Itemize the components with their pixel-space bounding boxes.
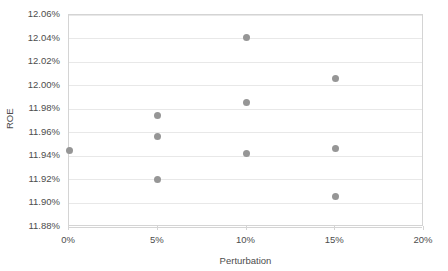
y-axis-tick-label: 12.04% xyxy=(0,33,60,43)
y-gridline xyxy=(69,109,422,110)
y-axis-tick-label: 12.06% xyxy=(0,9,60,19)
data-point xyxy=(154,176,161,183)
y-axis-title: ROE xyxy=(5,97,15,141)
y-axis-tick-label: 11.94% xyxy=(0,150,60,160)
y-axis-tick-label: 11.88% xyxy=(0,221,60,231)
x-axis-title: Perturbation xyxy=(68,256,423,266)
data-point xyxy=(154,112,161,119)
data-point xyxy=(243,99,250,106)
data-point xyxy=(332,145,339,152)
y-gridline xyxy=(69,203,422,204)
data-point xyxy=(332,193,339,200)
y-axis-tick-label: 11.90% xyxy=(0,197,60,207)
data-point xyxy=(332,75,339,82)
y-gridline xyxy=(69,85,422,86)
x-axis-tick-label: 20% xyxy=(393,235,448,245)
x-axis-tick-label: 5% xyxy=(127,235,187,245)
x-axis-tick-label: 15% xyxy=(304,235,364,245)
y-axis-tick-label: 12.00% xyxy=(0,80,60,90)
x-axis-tick-mark xyxy=(68,226,69,230)
x-axis-tick-mark xyxy=(423,226,424,230)
data-point xyxy=(154,133,161,140)
data-point xyxy=(243,34,250,41)
x-axis-tick-mark xyxy=(246,226,247,230)
y-gridline xyxy=(69,15,422,16)
y-gridline xyxy=(69,62,422,63)
y-axis-tick-label: 11.92% xyxy=(0,174,60,184)
x-axis-tick-label: 10% xyxy=(216,235,276,245)
scatter-chart: 11.88%11.90%11.92%11.94%11.96%11.98%12.0… xyxy=(0,0,448,271)
y-axis-tick-label: 12.02% xyxy=(0,56,60,66)
x-axis-tick-mark xyxy=(157,226,158,230)
x-axis-tick-mark xyxy=(334,226,335,230)
y-gridline xyxy=(69,179,422,180)
x-axis-tick-label: 0% xyxy=(38,235,98,245)
plot-area xyxy=(68,14,423,226)
data-point xyxy=(66,147,73,154)
y-gridline xyxy=(69,132,422,133)
